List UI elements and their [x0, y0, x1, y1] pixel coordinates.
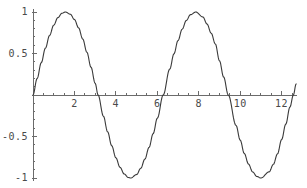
x-tick-label: 10: [234, 99, 247, 109]
plot-canvas: 2468101210.5-0.5-1: [0, 0, 307, 188]
y-tick-label: -1: [15, 173, 28, 183]
x-tick-label: 4: [113, 99, 120, 109]
x-tick-label: 8: [195, 99, 202, 109]
x-tick-label: 12: [275, 99, 288, 109]
y-tick-label: 0.5: [8, 49, 28, 59]
sine-plot-svg: [0, 0, 307, 188]
y-tick-label: 1: [21, 7, 28, 17]
y-tick-label: -0.5: [2, 132, 28, 142]
x-tick-label: 2: [71, 99, 78, 109]
x-tick-label: 6: [154, 99, 161, 109]
